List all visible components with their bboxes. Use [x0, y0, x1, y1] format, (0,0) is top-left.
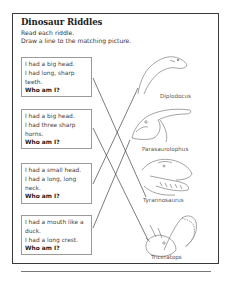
- drawing-layer: [0, 0, 228, 298]
- match-line-1[interactable]: [93, 78, 146, 197]
- match-line-3[interactable]: [93, 88, 138, 184]
- picture-label-diplodocus: Diplodocus: [160, 93, 191, 99]
- matching-lines[interactable]: [93, 78, 148, 240]
- picture-label-parasaurolophus: Parasaurolophus: [142, 146, 188, 152]
- picture-label-tyrannosaurus: Tyrannosaurus: [143, 197, 184, 203]
- tyrannosaurus-icon[interactable]: [142, 159, 192, 195]
- parasaurolophus-icon[interactable]: [132, 109, 191, 142]
- picture-label-triceratops: Triceratops: [151, 254, 182, 260]
- triceratops-icon[interactable]: [146, 216, 197, 256]
- diplodocus-icon[interactable]: [138, 57, 187, 94]
- match-line-4[interactable]: [93, 140, 130, 228]
- bottom-rule: [21, 271, 211, 272]
- match-line-2[interactable]: [93, 128, 148, 240]
